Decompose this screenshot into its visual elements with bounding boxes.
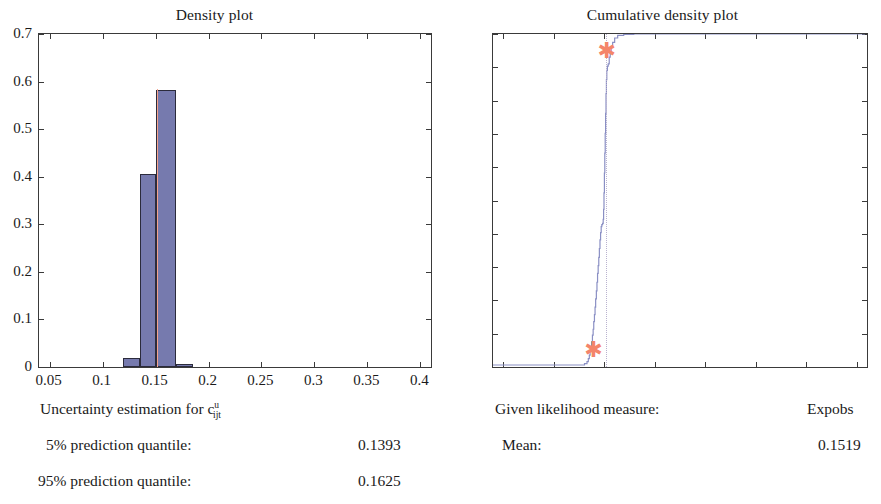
y-tick [426,367,431,368]
histogram-bar [123,358,140,367]
x-tick [156,34,157,39]
y-tick [39,177,44,178]
y-tick [862,367,867,368]
y-tick [39,272,44,273]
y-tick [39,319,44,320]
y-tick-label: 0.6 [0,72,32,89]
x-tick-label: 0.4 [410,372,429,389]
y-tick-label: 0.7 [0,25,32,42]
y-tick [426,34,431,35]
y-tick-label: 0 [0,358,32,375]
likelihood-measure-label: Given likelihood measure: [495,400,659,418]
quantile-5-label: 5% prediction quantile: [46,436,192,454]
quantile-reference-line [606,34,607,367]
cumulative-density-plot-axes: ✱✱ [492,33,868,368]
x-tick [367,34,368,39]
y-tick [493,367,498,368]
y-tick [426,177,431,178]
x-tick [103,34,104,39]
density-plot-axes [38,33,432,368]
uncertainty-caption-text: Uncertainty estimation for c [40,400,214,417]
y-tick [39,82,44,83]
y-tick [426,129,431,130]
y-tick [39,129,44,130]
x-tick-label: 0.35 [353,372,379,389]
y-tick [426,319,431,320]
histogram-bar [140,174,156,367]
x-tick-label: 0.05 [35,372,61,389]
x-tick [367,362,368,367]
quantile-95-value: 0.1625 [358,472,401,490]
x-tick [261,34,262,39]
mean-label: Mean: [502,436,542,454]
x-tick-label: 0.3 [304,372,323,389]
x-tick [261,362,262,367]
mean-marker-line [157,89,159,367]
x-tick [50,34,51,39]
uncertainty-caption: Uncertainty estimation for cuijt [40,400,221,418]
y-tick [39,367,44,368]
histogram-bar [156,90,176,367]
x-tick [50,362,51,367]
y-tick-label: 0.5 [0,120,32,137]
y-tick [39,34,44,35]
x-tick [420,362,421,367]
caption-superscript: u [214,400,219,410]
x-tick [209,362,210,367]
x-tick-label: 0.1 [92,372,111,389]
y-tick [426,82,431,83]
y-tick-label: 0.2 [0,262,32,279]
y-tick-label: 0.4 [0,167,32,184]
x-tick [314,362,315,367]
x-tick [420,34,421,39]
quantile-95-label: 95% prediction quantile: [38,472,191,490]
cdf-curve [493,34,867,367]
x-tick-label: 0.2 [198,372,217,389]
y-tick-label: 0.1 [0,310,32,327]
quantile-5-value: 0.1393 [358,436,401,454]
x-tick [103,362,104,367]
y-tick [39,224,44,225]
x-tick-label: 0.25 [247,372,273,389]
y-tick [426,272,431,273]
cdf-step-line [493,34,865,365]
quantile-marker-upper: ✱ [597,39,615,61]
caption-subscript: ijt [213,410,221,420]
density-plot-title: Density plot [0,6,437,24]
x-tick [314,34,315,39]
y-tick-label: 0.3 [0,215,32,232]
histogram-bar [176,364,193,367]
x-tick-label: 0.15 [141,372,167,389]
cumulative-density-plot-title: Cumulative density plot [442,6,881,24]
quantile-marker-lower: ✱ [584,339,602,361]
y-tick [426,224,431,225]
mean-value: 0.1519 [818,436,861,454]
density-plot-panel: Density plot 00.10.20.30.40.50.60.7 0.05… [0,0,445,504]
x-tick [209,34,210,39]
cumulative-density-plot-panel: Cumulative density plot ✱✱ 00.10.20.30.4… [440,0,881,504]
likelihood-measure-value: Expobs [807,400,854,418]
